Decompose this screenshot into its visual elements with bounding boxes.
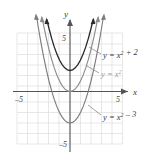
y-axis-arrowhead <box>67 19 73 26</box>
y-axis-title: y <box>63 9 68 19</box>
graph-canvas: y x –5 5 5 –5 y = x2 + 2 y = x2 y = x2 –… <box>0 0 167 162</box>
annotation-label-top: y = x2 + 2 <box>102 47 139 60</box>
parabola-family-figure: y x –5 5 5 –5 y = x2 + 2 y = x2 y = x2 –… <box>0 0 167 162</box>
y-tick-label-bottom: –5 <box>58 140 67 149</box>
x-axis-title: x <box>132 87 137 97</box>
y-tick-label-top: 5 <box>62 34 66 43</box>
annotation-label-bottom: y = x2 – 3 <box>102 109 136 122</box>
annotation-label-middle: y = x2 <box>100 69 122 79</box>
x-tick-label-right: 5 <box>116 95 120 104</box>
leader-line-bottom <box>88 105 101 115</box>
x-tick-label-left: –5 <box>14 95 23 104</box>
x-axis-arrowhead <box>121 89 128 95</box>
